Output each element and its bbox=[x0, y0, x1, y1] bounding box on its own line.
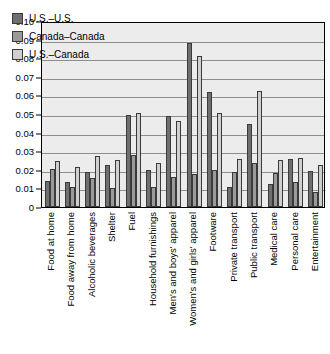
x-axis-tick-label: Household furnishings bbox=[148, 212, 158, 306]
bar-group bbox=[164, 23, 184, 207]
bar-chart-figure: 0.100.090.080.070.060.050.040.030.020.01… bbox=[0, 0, 330, 354]
bar bbox=[55, 161, 60, 207]
x-axis-label-slot: Public transport bbox=[244, 210, 264, 354]
legend-item-label: Canada–Canada bbox=[29, 32, 105, 42]
legend-swatch-icon bbox=[12, 31, 23, 42]
x-axis-label-slot: Footware bbox=[203, 210, 223, 354]
y-axis-tick-label: 0 bbox=[29, 203, 34, 213]
bar-group bbox=[285, 23, 305, 207]
x-axis-tick-label: Private transport bbox=[229, 212, 239, 282]
x-axis-label-slot: Alcoholic beverages bbox=[82, 210, 102, 354]
bar bbox=[136, 113, 141, 207]
x-axis-tick-label: Medical care bbox=[270, 212, 280, 266]
x-axis-tick-label: Footware bbox=[209, 212, 219, 252]
x-axis-tick-label: Alcoholic beverages bbox=[87, 212, 97, 297]
bar bbox=[257, 91, 262, 207]
x-axis-label-slot: Personal care bbox=[284, 210, 304, 354]
legend-item-label: U.S.–U.S. bbox=[29, 14, 73, 24]
x-axis-tick-label: Public transport bbox=[249, 212, 259, 278]
x-axis-tick-label: Men's and boys' apparel bbox=[168, 212, 178, 314]
legend-item: U.S.–Canada bbox=[12, 49, 105, 60]
x-axis-label-slot: Men's and boys' apparel bbox=[163, 210, 183, 354]
bar bbox=[217, 113, 222, 207]
x-axis-label-slot: Entertainment bbox=[305, 210, 325, 354]
bar bbox=[115, 160, 120, 207]
x-axis-label-slot: Women's and girls' apparel bbox=[183, 210, 203, 354]
bar bbox=[197, 56, 202, 207]
x-axis-tick-label: Personal care bbox=[290, 212, 300, 271]
legend-item: Canada–Canada bbox=[12, 31, 105, 42]
bar bbox=[278, 160, 283, 207]
x-axis-label-slot: Household furnishings bbox=[142, 210, 162, 354]
y-axis-tick-label: 0.04 bbox=[16, 129, 35, 139]
x-axis-labels: Food at homeFood away from homeAlcoholic… bbox=[41, 210, 325, 354]
x-axis-tick-label: Food away from home bbox=[67, 212, 77, 307]
bar bbox=[176, 121, 181, 207]
x-axis-tick-label: Food at home bbox=[46, 212, 56, 271]
y-axis-tick-label: 0.02 bbox=[16, 166, 35, 176]
legend-swatch-icon bbox=[12, 49, 23, 60]
bar-group bbox=[103, 23, 123, 207]
bar bbox=[75, 167, 80, 207]
bar-group bbox=[184, 23, 204, 207]
bar-group bbox=[123, 23, 143, 207]
x-axis-tick-label: Women's and girls' apparel bbox=[188, 212, 198, 326]
x-axis-label-slot: Medical care bbox=[264, 210, 284, 354]
legend-swatch-icon bbox=[12, 13, 23, 24]
x-axis-label-slot: Fuel bbox=[122, 210, 142, 354]
y-axis-tick-label: 0.03 bbox=[16, 147, 35, 157]
bar-group bbox=[245, 23, 265, 207]
bar bbox=[318, 165, 323, 207]
bar bbox=[237, 159, 242, 207]
legend-item-label: U.S.–Canada bbox=[29, 50, 89, 60]
bar-group bbox=[143, 23, 163, 207]
bar-group bbox=[225, 23, 245, 207]
x-axis-label-slot: Shelter bbox=[102, 210, 122, 354]
x-axis-tick-label: Entertainment bbox=[310, 212, 320, 271]
legend-item: U.S.–U.S. bbox=[12, 13, 105, 24]
bar bbox=[156, 163, 161, 207]
chart-legend: U.S.–U.S.Canada–CanadaU.S.–Canada bbox=[12, 13, 105, 67]
x-axis-label-slot: Food at home bbox=[41, 210, 61, 354]
bar bbox=[298, 158, 303, 207]
x-axis-tick-label: Shelter bbox=[107, 212, 117, 242]
y-axis-tick-label: 0.05 bbox=[16, 110, 35, 120]
x-axis-tick-label: Fuel bbox=[128, 212, 138, 230]
y-axis-tick-label: 0.07 bbox=[16, 73, 35, 83]
bar-group bbox=[265, 23, 285, 207]
x-axis-label-slot: Food away from home bbox=[61, 210, 81, 354]
y-axis-tick-label: 0.01 bbox=[16, 185, 35, 195]
x-axis-label-slot: Private transport bbox=[224, 210, 244, 354]
bar-group bbox=[204, 23, 224, 207]
y-axis-tick-label: 0.06 bbox=[16, 92, 35, 102]
bar bbox=[95, 156, 100, 207]
bar-group bbox=[306, 23, 326, 207]
